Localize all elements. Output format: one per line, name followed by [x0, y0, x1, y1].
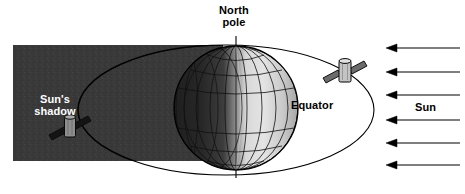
sun-label: Sun: [415, 101, 436, 113]
earth-globe: [174, 46, 298, 170]
sun-ray-arrow: [386, 116, 460, 124]
sun-ray-arrow: [386, 68, 460, 76]
sun-ray-arrow: [386, 44, 460, 52]
sun-shadow-label: Sun's shadow: [24, 93, 86, 117]
sun-ray-arrow: [386, 91, 460, 99]
equator-label: Equator: [291, 99, 333, 111]
satellite-sunlit: [323, 59, 367, 83]
sun-ray-arrow: [386, 161, 460, 169]
diagram-canvas: North pole Sun's shadow Equator Sun: [0, 0, 465, 194]
sun-ray-arrow: [386, 139, 460, 147]
north-pole-label: North pole: [197, 4, 271, 28]
